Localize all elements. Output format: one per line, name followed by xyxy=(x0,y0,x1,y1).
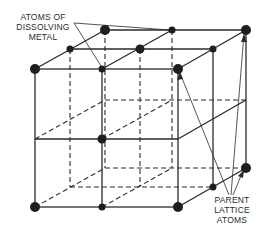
dissolving-metal-label-line-1: ATOMS OF xyxy=(10,12,76,22)
dissolving-metal-label-line-3: METAL xyxy=(10,32,76,42)
parent-lattice-label-line-3: ATOMS xyxy=(207,215,257,225)
parent-lattice-label-line-1: PARENT xyxy=(207,195,257,205)
parent-lattice-label-line-2: LATTICE xyxy=(207,205,257,215)
parent-lattice-label: PARENT LATTICE ATOMS xyxy=(207,195,257,225)
dissolving-metal-label-line-2: DISSOLVING xyxy=(10,22,76,32)
dissolving-metal-label: ATOMS OF DISSOLVING METAL xyxy=(10,12,76,42)
